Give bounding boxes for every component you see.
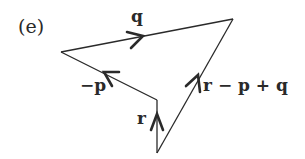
vector-q-line — [61, 19, 233, 52]
arrow-q-icon — [127, 32, 143, 48]
arrow-minus-p-icon — [104, 72, 119, 86]
label-minus-p: −p — [80, 75, 106, 95]
label-q: q — [131, 6, 143, 26]
vector-diagram: (e) q −p r r − p + q — [0, 0, 305, 159]
panel-label: (e) — [18, 15, 44, 37]
label-r: r — [137, 108, 147, 128]
label-r-minus-p-plus-q: r − p + q — [203, 75, 288, 95]
vector-minus-p-line — [61, 52, 157, 100]
